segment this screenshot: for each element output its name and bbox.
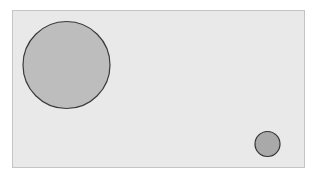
large-circle [23, 22, 110, 109]
small-circle [255, 132, 280, 157]
diagram-canvas [0, 0, 313, 178]
diagram-svg [0, 0, 313, 178]
